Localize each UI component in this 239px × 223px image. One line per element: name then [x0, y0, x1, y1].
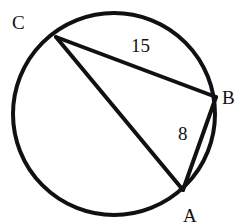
- point-label-a: A: [183, 205, 197, 223]
- point-label-b: B: [222, 87, 235, 108]
- length-label-cb: 15: [131, 35, 150, 56]
- length-label-ba: 8: [178, 123, 188, 144]
- geometry-diagram: C B A 15 8: [0, 0, 239, 223]
- point-label-c: C: [12, 12, 25, 33]
